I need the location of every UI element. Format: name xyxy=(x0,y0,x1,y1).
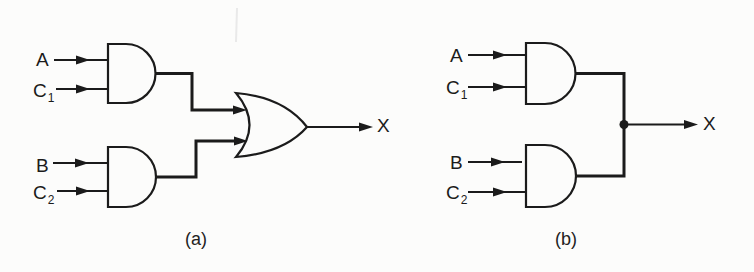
input-wires-a xyxy=(53,60,108,191)
input-label-text: A xyxy=(450,45,463,66)
input-wires-b xyxy=(468,55,526,192)
input-label-subscript: 1 xyxy=(48,91,55,105)
and-gate-top-b xyxy=(526,43,575,104)
input-label-a-b: A xyxy=(450,46,463,65)
input-label-text: C xyxy=(446,77,460,98)
input-label-subscript: 1 xyxy=(461,88,468,102)
output-arrowhead-a xyxy=(359,123,373,132)
and-gate-top-a xyxy=(108,44,156,103)
input-label-c2-a: C2 xyxy=(33,183,53,202)
logic-diagram-figure: A C1 B C2 X (a) A C1 B C2 X (b) xyxy=(0,0,754,272)
input-label-c2-b: C2 xyxy=(446,183,466,202)
output-label-a: X xyxy=(377,116,390,135)
caption-b: (b) xyxy=(555,230,577,248)
input-label-subscript: 2 xyxy=(461,193,468,207)
output-arrowhead-b xyxy=(684,120,698,129)
input-arrowheads-b xyxy=(491,51,507,197)
circuit-graphics xyxy=(0,0,754,272)
input-label-b-b: B xyxy=(450,153,463,172)
and-gate-bottom-b xyxy=(526,145,576,207)
input-label-text: C xyxy=(33,80,47,101)
input-label-text: C xyxy=(446,182,460,203)
input-label-subscript: 2 xyxy=(48,193,55,207)
and-gate-bottom-a xyxy=(108,147,156,207)
input-label-text: B xyxy=(36,155,49,176)
input-arrowheads-a xyxy=(75,56,90,196)
wired-or-bus-b xyxy=(575,74,624,177)
or-gate-a xyxy=(236,93,307,157)
output-label-b: X xyxy=(703,114,716,133)
input-label-c1-a: C1 xyxy=(33,81,53,100)
circuit-b xyxy=(468,43,698,207)
input-label-c1-b: C1 xyxy=(446,78,466,97)
input-label-text: B xyxy=(450,152,463,173)
input-label-text: C xyxy=(33,182,47,203)
input-label-b-a: B xyxy=(36,156,49,175)
input-label-text: A xyxy=(36,49,49,70)
scan-artifact xyxy=(236,8,237,42)
circuit-a xyxy=(53,44,373,207)
connection-wires-a xyxy=(155,74,234,178)
input-label-a-a: A xyxy=(36,50,49,69)
caption-a: (a) xyxy=(185,230,207,248)
